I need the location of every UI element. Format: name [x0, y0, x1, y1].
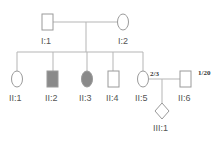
label-iii1: III:1	[153, 123, 168, 133]
label-ii3: II:3	[79, 93, 92, 103]
individual-ii1-female-symbol	[12, 71, 23, 87]
label-ii1: II:1	[9, 93, 22, 103]
probability-ii6: 1/20	[198, 69, 211, 77]
individual-i2-female-symbol	[118, 14, 129, 30]
label-i2: I:2	[118, 36, 128, 46]
label-i1: I:1	[41, 36, 51, 46]
individual-ii3-affected-female-symbol	[82, 71, 93, 87]
individual-ii2-affected-male-symbol	[47, 71, 58, 87]
label-ii2: II:2	[45, 93, 58, 103]
individual-ii6-male-symbol	[180, 71, 191, 87]
individual-iii1-unknown-sex-symbol	[155, 103, 169, 119]
individual-i1-male-symbol	[42, 14, 53, 30]
pedigree-chart: I:1 I:2 II:1 II:2 II:3 II:4 II:5 2/3 II:…	[0, 0, 223, 141]
probability-ii5: 2/3	[150, 70, 159, 78]
label-ii4: II:4	[106, 93, 119, 103]
label-ii5: II:5	[135, 93, 148, 103]
individual-ii5-female-symbol	[138, 71, 149, 87]
individual-ii4-male-symbol	[108, 71, 119, 87]
label-ii6: II:6	[178, 93, 191, 103]
